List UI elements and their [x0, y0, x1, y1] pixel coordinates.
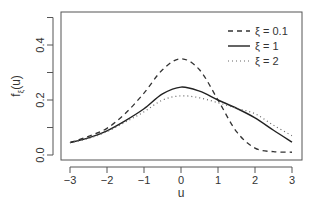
x-tick-label: −2 — [101, 174, 114, 186]
legend: ξ = 0.1ξ = 1ξ = 2 — [228, 25, 288, 67]
legend-label: ξ = 1 — [255, 40, 279, 52]
x-tick-label: 2 — [252, 174, 258, 186]
x-tick-label: 1 — [215, 174, 221, 186]
series-line-solid — [70, 87, 292, 143]
legend-label: ξ = 0.1 — [255, 25, 288, 37]
series-line-dashed — [70, 59, 292, 153]
x-tick-label: 0 — [178, 174, 184, 186]
svg-text:fξ(u): fξ(u) — [9, 75, 25, 97]
x-tick-label: 3 — [289, 174, 295, 186]
y-tick-label: 0.4 — [34, 37, 46, 52]
x-axis: −3−2−10123 — [64, 167, 295, 186]
y-axis-title-tail: (u) — [9, 75, 23, 90]
x-tick-label: −1 — [138, 174, 151, 186]
series-group — [70, 59, 292, 153]
legend-label: ξ = 2 — [255, 55, 279, 67]
y-axis: 0.00.20.4 — [34, 18, 53, 163]
x-axis-title: u — [178, 186, 185, 200]
y-tick-label: 0.0 — [34, 147, 46, 162]
series-line-dotted — [70, 96, 292, 143]
x-tick-label: −3 — [64, 174, 77, 186]
y-tick-label: 0.2 — [34, 92, 46, 107]
chart: 0.00.20.4 −3−2−10123 ξ = 0.1ξ = 1ξ = 2 u… — [0, 0, 319, 207]
y-axis-title: fξ(u) — [9, 75, 25, 97]
